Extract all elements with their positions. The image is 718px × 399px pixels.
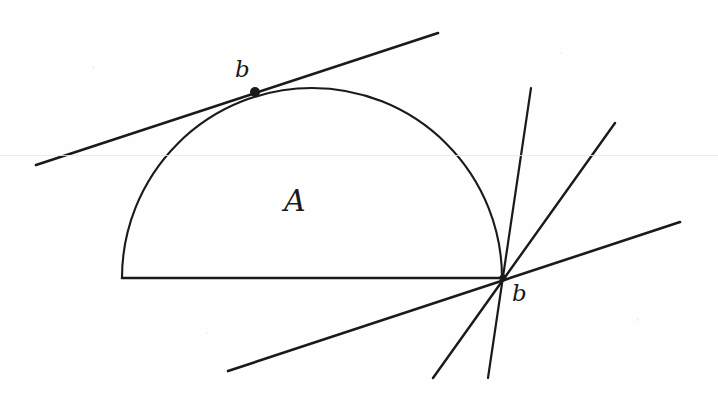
tangent-point-dot: [250, 87, 260, 97]
region-arc: [122, 88, 502, 278]
supporting-line-steep: [433, 123, 615, 378]
label-boundary-point-top: b: [235, 58, 250, 81]
label-region-a: A: [284, 186, 306, 216]
region-boundary-group: [122, 88, 503, 278]
vertex-point-dot: [499, 274, 506, 281]
label-boundary-point-vertex: b: [512, 282, 527, 305]
figure-canvas: b b A: [0, 0, 718, 399]
supporting-line-near-vertical: [488, 88, 531, 378]
geometry-diagram: [0, 0, 718, 399]
supporting-lines-group: [36, 33, 680, 378]
